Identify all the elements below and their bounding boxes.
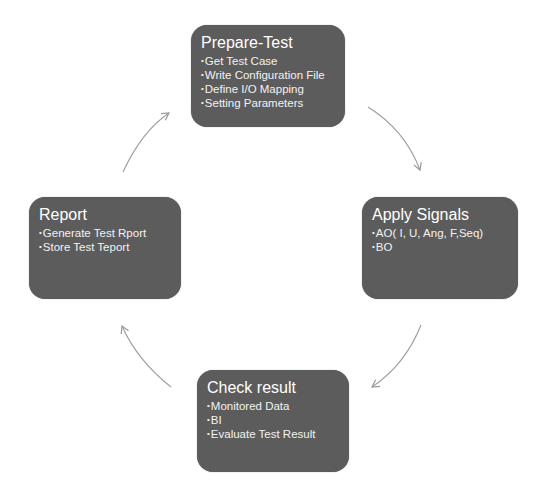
arrow-prepare-to-apply: [368, 107, 420, 170]
node-title: Prepare-Test: [201, 33, 335, 52]
node-item: BI: [207, 413, 339, 427]
node-item: Write Configuration File: [201, 68, 335, 82]
node-item: Monitored Data: [207, 399, 339, 413]
node-item: BO: [372, 240, 508, 254]
node-item: Generate Test Rport: [39, 226, 171, 240]
node-report: Report Generate Test Rport Store Test Te…: [29, 197, 181, 299]
node-item: Store Test Teport: [39, 240, 171, 254]
arrow-check-to-report: [122, 326, 171, 387]
node-prepare-test: Prepare-Test Get Test Case Write Configu…: [191, 25, 345, 127]
node-check-result: Check result Monitored Data BI Evaluate …: [197, 370, 349, 472]
node-title: Report: [39, 205, 171, 224]
node-item: Setting Parameters: [201, 96, 335, 110]
node-apply-signals: Apply Signals AO( I, U, Ang, F,Seq) BO: [362, 197, 518, 299]
node-item: Define I/O Mapping: [201, 82, 335, 96]
node-item: Evaluate Test Result: [207, 427, 339, 441]
arrow-report-to-prepare: [123, 113, 169, 172]
node-item: Get Test Case: [201, 54, 335, 68]
node-item: AO( I, U, Ang, F,Seq): [372, 226, 508, 240]
arrow-apply-to-check: [372, 325, 421, 387]
node-title: Apply Signals: [372, 205, 508, 224]
node-title: Check result: [207, 378, 339, 397]
